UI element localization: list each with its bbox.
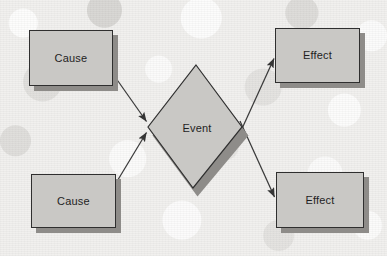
node-body[interactable]: Cause: [31, 174, 116, 228]
node-effect-top[interactable]: Effect: [275, 28, 366, 89]
node-label-wrap: Event: [140, 58, 252, 198]
node-label: Cause: [57, 196, 90, 207]
node-cause-top[interactable]: Cause: [29, 30, 119, 92]
node-label: Effect: [305, 195, 334, 206]
node-body[interactable]: Effect: [276, 172, 364, 228]
node-label: Cause: [55, 53, 88, 64]
node-label: Event: [182, 123, 211, 134]
node-cause-bottom[interactable]: Cause: [31, 174, 122, 234]
node-event[interactable]: Event: [140, 58, 252, 198]
node-body[interactable]: Effect: [275, 28, 360, 83]
cause-effect-diagram: Cause Cause Event Effect Effect: [0, 0, 387, 256]
node-label: Effect: [303, 50, 332, 61]
node-body[interactable]: Cause: [29, 30, 113, 86]
node-effect-bottom[interactable]: Effect: [276, 172, 370, 234]
